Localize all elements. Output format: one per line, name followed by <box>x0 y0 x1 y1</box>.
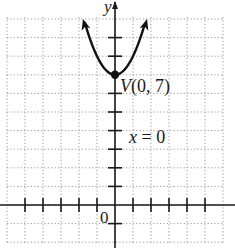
vertex-label-coords: (0, 7) <box>131 76 170 97</box>
vertex-point <box>111 71 119 79</box>
y-axis-arrow-icon <box>112 1 118 9</box>
y-axis-label: y <box>102 0 112 16</box>
parabola-graph: y 0 V(0, 7) x = 0 <box>0 0 235 250</box>
origin-label: 0 <box>100 208 109 227</box>
vertex-label: V(0, 7) <box>120 76 170 97</box>
axis-of-symmetry-eq: = 0 <box>137 127 165 147</box>
axis-of-symmetry-label: x = 0 <box>128 127 165 147</box>
axis-of-symmetry-x: x <box>128 127 137 147</box>
